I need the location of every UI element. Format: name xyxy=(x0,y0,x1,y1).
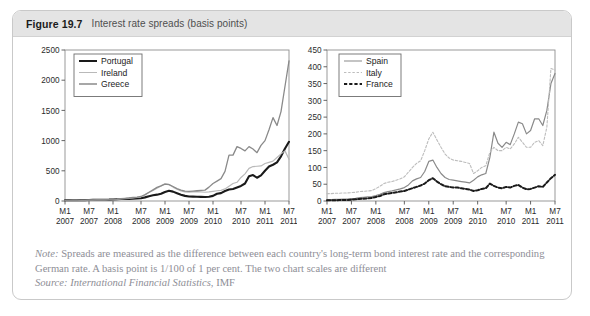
x-tick-label-year: 2011 xyxy=(280,217,297,226)
x-tick-label-month: M1 xyxy=(107,207,119,216)
x-tick-label-month: M7 xyxy=(135,207,147,216)
y-tick-label: 500 xyxy=(46,167,60,176)
x-tick-label-year: 2009 xyxy=(444,217,463,226)
legend-label-italy: Italy xyxy=(366,68,382,78)
y-axis-right: 050100150200250300350400450 xyxy=(308,46,327,206)
x-tick-label-month: M1 xyxy=(525,207,537,216)
x-tick-label-month: M1 xyxy=(423,207,435,216)
legend-right: SpainItalyFrance xyxy=(339,54,401,97)
y-tick-label: 450 xyxy=(308,46,322,55)
x-tick-label-year: 2011 xyxy=(522,217,540,226)
x-tick-label-month: M1 xyxy=(472,207,484,216)
x-axis-left: M12007M72007M12008M72008M12009M72009M120… xyxy=(56,201,297,226)
y-tick-label: 2500 xyxy=(41,46,60,55)
x-tick-label-year: 2010 xyxy=(232,217,251,226)
figure-header-band: Figure 19.7 Interest rate spreads (basis… xyxy=(13,11,571,37)
figure-number: Figure 19.7 xyxy=(26,18,83,30)
x-tick-label-year: 2008 xyxy=(367,217,386,226)
y-tick-label: 350 xyxy=(308,80,322,89)
x-tick-label-year: 2008 xyxy=(132,217,151,226)
y-tick-label: 0 xyxy=(55,197,60,206)
y-tick-label: 300 xyxy=(308,97,322,106)
x-tick-label-year: 2007 xyxy=(56,217,75,226)
source-label: Source: International Financial Statisti… xyxy=(35,277,211,288)
y-tick-label: 150 xyxy=(308,147,322,156)
y-tick-label: 50 xyxy=(312,180,322,189)
legend-label-ireland: Ireland xyxy=(101,68,127,78)
chart-svg-left: 05001000150020002500M12007M72007M12008M7… xyxy=(21,43,297,233)
legend-left: PortugalIrelandGreece xyxy=(74,54,142,97)
x-tick-label-month: M1 xyxy=(321,207,333,216)
figure-container: Figure 19.7 Interest rate spreads (basis… xyxy=(12,10,572,300)
x-tick-label-month: M7 xyxy=(83,207,95,216)
y-tick-label: 1500 xyxy=(41,107,60,116)
x-tick-label-year: 2011 xyxy=(256,217,274,226)
x-tick-label-year: 2007 xyxy=(80,217,99,226)
x-tick-label-year: 2007 xyxy=(318,217,337,226)
legend-label-portugal: Portugal xyxy=(101,56,133,66)
x-axis-right: M12007M72007M12008M72008M12009M72009M120… xyxy=(318,201,564,226)
chart-right-panel: 050100150200250300350400450M12007M72007M… xyxy=(297,43,565,233)
x-tick-label-month: M1 xyxy=(259,207,271,216)
x-tick-label-month: M7 xyxy=(283,207,295,216)
x-tick-label-year: 2010 xyxy=(497,217,516,226)
x-tick-label-month: M7 xyxy=(399,207,411,216)
x-tick-label-year: 2010 xyxy=(204,217,223,226)
note-lead-label: Note: xyxy=(35,248,59,259)
x-tick-label-month: M7 xyxy=(183,207,195,216)
x-tick-label-year: 2010 xyxy=(469,217,488,226)
chart-svg-right: 050100150200250300350400450M12007M72007M… xyxy=(297,43,565,233)
x-tick-label-year: 2009 xyxy=(180,217,199,226)
y-tick-label: 1000 xyxy=(41,137,60,146)
y-tick-label: 400 xyxy=(308,63,322,72)
figure-title: Interest rate spreads (basis points) xyxy=(92,18,248,29)
source-publisher: , IMF xyxy=(211,277,235,288)
x-tick-label-month: M1 xyxy=(59,207,71,216)
figure-note: Note: Spreads are measured as the differ… xyxy=(13,247,571,291)
legend-label-france: France xyxy=(366,79,393,89)
y-tick-label: 200 xyxy=(308,130,322,139)
y-tick-label: 100 xyxy=(308,164,322,173)
x-tick-label-year: 2008 xyxy=(395,217,414,226)
x-tick-label-year: 2009 xyxy=(156,217,175,226)
x-tick-label-month: M7 xyxy=(500,207,512,216)
legend-label-spain: Spain xyxy=(366,56,388,66)
x-tick-label-month: M7 xyxy=(448,207,460,216)
note-line-1-text: Spreads are measured as the difference b… xyxy=(59,248,545,259)
x-tick-label-year: 2011 xyxy=(546,217,564,226)
note-line-2: German rate. A basis point is 1/100 of 1… xyxy=(35,262,549,277)
x-tick-label-month: M7 xyxy=(346,207,358,216)
x-tick-label-month: M7 xyxy=(549,207,561,216)
chart-left-panel: 05001000150020002500M12007M72007M12008M7… xyxy=(21,43,297,233)
x-tick-label-year: 2007 xyxy=(342,217,361,226)
y-tick-label: 0 xyxy=(317,197,322,206)
x-tick-label-month: M7 xyxy=(235,207,247,216)
x-tick-label-month: M1 xyxy=(370,207,382,216)
x-tick-label-month: M1 xyxy=(159,207,171,216)
y-axis-left: 05001000150020002500 xyxy=(41,46,65,206)
legend-label-greece: Greece xyxy=(101,79,129,89)
note-source-line: Source: International Financial Statisti… xyxy=(35,276,549,291)
y-tick-label: 250 xyxy=(308,113,322,122)
x-tick-label-year: 2008 xyxy=(104,217,123,226)
series-line-france xyxy=(327,175,555,201)
note-line-1: Note: Spreads are measured as the differ… xyxy=(35,247,549,262)
x-tick-label-month: M1 xyxy=(207,207,219,216)
y-tick-label: 2000 xyxy=(41,76,60,85)
x-tick-label-year: 2009 xyxy=(420,217,439,226)
